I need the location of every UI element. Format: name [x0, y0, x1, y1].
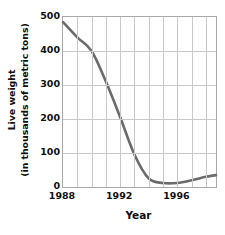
x-axis-tick-label: 1992: [99, 190, 139, 201]
gridline-vertical: [106, 17, 107, 187]
x-axis-tick-label: 1996: [156, 190, 196, 201]
gridline-horizontal: [63, 153, 216, 154]
gridline-vertical: [120, 17, 121, 187]
gridline-vertical: [177, 17, 178, 187]
y-axis-title-line2: (in thousands of metric tons): [18, 23, 31, 177]
y-axis-tick-labels: 0100200300400500: [34, 0, 60, 200]
gridline-vertical: [206, 17, 207, 187]
line-chart: Live weight (in thousands of metric tons…: [0, 0, 225, 235]
x-axis-title: Year: [62, 209, 215, 221]
y-axis-tick-label: 400: [34, 45, 60, 55]
y-axis-tick-label: 300: [34, 79, 60, 89]
y-axis-tick-label: 500: [34, 11, 60, 21]
series-path: [63, 22, 216, 183]
gridline-vertical: [163, 17, 164, 187]
gridline-vertical: [192, 17, 193, 187]
data-series-line: [63, 17, 216, 187]
gridline-horizontal: [63, 85, 216, 86]
gridline-vertical: [149, 17, 150, 187]
gridline-horizontal: [63, 119, 216, 120]
gridline-vertical: [134, 17, 135, 187]
y-axis-tick-label: 200: [34, 113, 60, 123]
plot-inner: [63, 17, 216, 187]
gridline-vertical: [92, 17, 93, 187]
plot-area: [62, 16, 217, 188]
y-axis-tick-label: 100: [34, 147, 60, 157]
y-axis-title-line1: Live weight: [5, 23, 18, 177]
gridline-vertical: [77, 17, 78, 187]
x-axis-tick-label: 1988: [42, 190, 82, 201]
gridline-horizontal: [63, 51, 216, 52]
y-axis-title: Live weight (in thousands of metric tons…: [0, 0, 36, 200]
